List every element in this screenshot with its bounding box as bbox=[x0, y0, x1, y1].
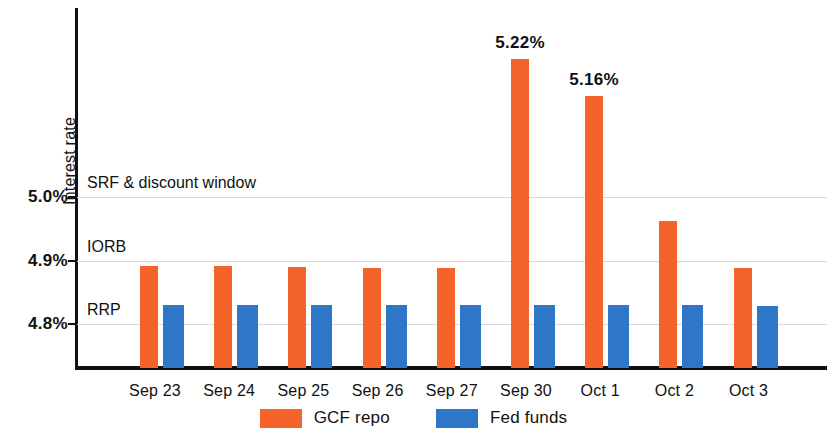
bar-gcf-repo-oct-3[interactable] bbox=[734, 268, 752, 368]
bar-gcf-repo-oct-1[interactable] bbox=[585, 96, 603, 368]
reference-line-label-rrp: RRP bbox=[87, 301, 121, 324]
x-axis-tick-label: Sep 26 bbox=[352, 382, 404, 400]
x-axis-tick-label: Sep 27 bbox=[426, 382, 478, 400]
bar-fed-funds-oct-3[interactable] bbox=[757, 306, 778, 368]
legend-swatch-gcf-repo bbox=[260, 409, 302, 428]
bar-fed-funds-sep-23[interactable] bbox=[163, 305, 184, 368]
bar-fed-funds-oct-2[interactable] bbox=[682, 305, 703, 368]
gridline-4.9 bbox=[77, 261, 827, 262]
bar-fed-funds-sep-24[interactable] bbox=[237, 305, 258, 368]
plot-area: 4.8%4.9%5.0%SRF & discount windowIORBRRP… bbox=[77, 8, 827, 368]
x-axis-tick-label: Oct 2 bbox=[655, 382, 694, 400]
x-axis-tick-label: Sep 24 bbox=[203, 382, 255, 400]
bar-fed-funds-sep-25[interactable] bbox=[311, 305, 332, 368]
gridline-5.0 bbox=[77, 197, 827, 198]
bar-fed-funds-oct-1[interactable] bbox=[608, 305, 629, 368]
chart-legend: GCF repo Fed funds bbox=[0, 408, 827, 428]
legend-label-gcf-repo: GCF repo bbox=[314, 408, 390, 428]
bar-fed-funds-sep-27[interactable] bbox=[460, 305, 481, 368]
reference-line-label-iorb: IORB bbox=[87, 238, 126, 261]
bar-gcf-repo-sep-30[interactable] bbox=[511, 59, 529, 368]
bar-gcf-repo-sep-23[interactable] bbox=[140, 266, 158, 368]
legend-item-fed-funds[interactable]: Fed funds bbox=[436, 408, 567, 428]
y-axis-tick-mark bbox=[68, 196, 77, 198]
y-axis-tick-mark bbox=[68, 323, 77, 325]
y-axis-tick-mark bbox=[68, 260, 77, 262]
x-axis-tick-label: Sep 25 bbox=[277, 382, 329, 400]
bar-fed-funds-sep-26[interactable] bbox=[386, 305, 407, 368]
x-axis-tick-label: Oct 3 bbox=[729, 382, 768, 400]
x-axis-tick-label: Oct 1 bbox=[581, 382, 620, 400]
bar-gcf-repo-sep-24[interactable] bbox=[214, 266, 232, 368]
bar-fed-funds-sep-30[interactable] bbox=[534, 305, 555, 368]
legend-swatch-fed-funds bbox=[436, 409, 478, 428]
legend-label-fed-funds: Fed funds bbox=[490, 408, 567, 428]
bar-gcf-repo-sep-27[interactable] bbox=[437, 268, 455, 368]
bar-gcf-repo-sep-25[interactable] bbox=[288, 267, 306, 368]
bar-value-label: 5.16% bbox=[569, 70, 619, 90]
bar-gcf-repo-sep-26[interactable] bbox=[363, 268, 381, 368]
legend-item-gcf-repo[interactable]: GCF repo bbox=[260, 408, 390, 428]
bar-gcf-repo-oct-2[interactable] bbox=[659, 221, 677, 368]
reference-line-label-srf: SRF & discount window bbox=[87, 174, 256, 197]
bar-value-label: 5.22% bbox=[495, 33, 545, 53]
x-axis-tick-label: Sep 23 bbox=[129, 382, 181, 400]
bar-chart: Interest rate 4.8%4.9%5.0%SRF & discount… bbox=[0, 0, 827, 432]
x-axis-tick-label: Sep 30 bbox=[500, 382, 552, 400]
